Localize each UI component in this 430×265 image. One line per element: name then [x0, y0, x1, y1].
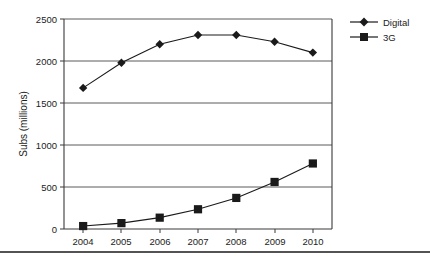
legend-label-digital: Digital — [383, 17, 409, 28]
data-point-square — [309, 159, 317, 167]
x-axis-tick-labels: 2004 2005 2006 2007 2008 2009 2010 — [72, 236, 323, 247]
x-tick-label-2006: 2006 — [149, 236, 170, 247]
y-tick-label-500: 500 — [41, 182, 57, 193]
chart-figure: 2500 2000 1500 1000 500 0 2004 2005 2006… — [0, 0, 430, 265]
plot-background — [64, 19, 332, 229]
y-tick-label-0: 0 — [52, 224, 57, 235]
y-tick-label-2000: 2000 — [36, 56, 57, 67]
data-point-square — [79, 222, 87, 230]
x-tick-label-2004: 2004 — [72, 236, 93, 247]
x-tick-label-2005: 2005 — [110, 236, 131, 247]
chart-legend: Digital 3G — [350, 17, 409, 43]
y-tick-label-2500: 2500 — [36, 14, 57, 25]
square-marker-icon — [360, 33, 368, 41]
diamond-marker-icon — [360, 18, 369, 27]
y-tick-label-1500: 1500 — [36, 98, 57, 109]
x-tick-label-2009: 2009 — [264, 236, 285, 247]
data-point-square — [232, 194, 240, 202]
line-chart: 2500 2000 1500 1000 500 0 2004 2005 2006… — [0, 0, 430, 265]
y-axis-ticks — [60, 19, 64, 229]
x-tick-label-2010: 2010 — [302, 236, 323, 247]
x-axis-ticks — [83, 229, 313, 233]
y-axis-title: Subs (millions) — [18, 91, 29, 157]
x-tick-label-2008: 2008 — [225, 236, 246, 247]
x-tick-label-2007: 2007 — [187, 236, 208, 247]
data-point-square — [194, 205, 202, 213]
data-point-square — [117, 219, 125, 227]
y-axis-tick-labels: 2500 2000 1500 1000 500 0 — [36, 14, 57, 235]
data-point-square — [270, 178, 278, 186]
legend-label-3g: 3G — [383, 32, 396, 43]
data-point-square — [156, 214, 164, 222]
y-tick-label-1000: 1000 — [36, 140, 57, 151]
